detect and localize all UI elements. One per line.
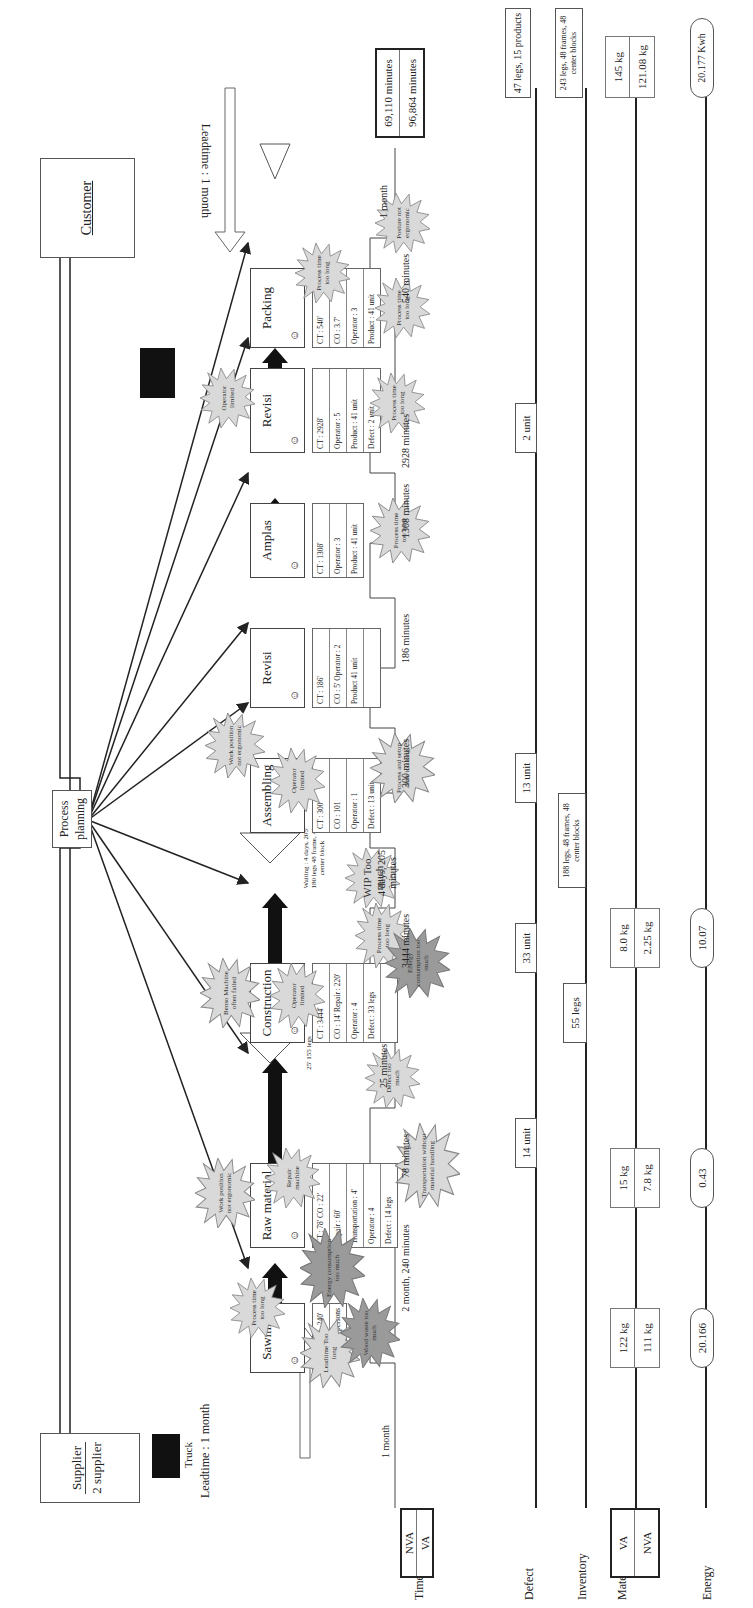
- operator-icon: ☺: [288, 435, 300, 446]
- kaizen-burst: Operator limited: [270, 963, 325, 1028]
- data-cell: Operator : 4: [347, 964, 364, 1042]
- energy-value: 10.07: [690, 908, 714, 968]
- data-cell: Operator : 3: [330, 504, 347, 577]
- operator-icon: ☺: [288, 560, 300, 571]
- kaizen-burst: Repair machine: [265, 1148, 320, 1208]
- process-data-revisi-1: CT : 186' CO : 5' Operator : 2 Product 4…: [312, 628, 381, 708]
- total-nva: 121.08 kg: [630, 37, 654, 97]
- material-va: 15 kg: [611, 1149, 635, 1207]
- data-cell: Defect : 33 legs: [364, 964, 381, 1042]
- energy-value: 20.166: [690, 1308, 714, 1368]
- truck-icon: [140, 348, 175, 398]
- customer-factory: Customer: [40, 158, 135, 258]
- data-cell: CT : 186': [313, 629, 330, 707]
- process-planning-box: Process planning: [52, 790, 92, 848]
- process-name: Revisi: [259, 629, 275, 707]
- defect-total: 47 legs, 15 products: [505, 8, 531, 98]
- truck-label: Truck: [182, 1442, 194, 1468]
- total-va: 96,864 minutes: [400, 50, 423, 136]
- operator-icon: ☺: [288, 1230, 300, 1241]
- process-data-amplas: CT : 1308' Operator : 3 Product : 41 uni…: [312, 503, 364, 578]
- process-amplas: Amplas☺: [250, 503, 305, 578]
- process-revisi-2: Revisi☺: [250, 368, 305, 453]
- material-nva: 7.8 kg: [635, 1149, 659, 1207]
- data-cell: CT : 2928': [313, 369, 330, 452]
- row-label-energy: Energy: [700, 1566, 715, 1600]
- kaizen-burst: Operator limited: [200, 368, 255, 428]
- row-label-inventory: Inventory: [575, 1553, 590, 1600]
- energy-total: 20.177 Kwh: [690, 18, 714, 98]
- data-cell: [364, 629, 380, 707]
- data-cell: Product : 41 unit: [347, 504, 363, 577]
- data-cell: Operator : 5: [330, 369, 347, 452]
- kaizen-burst: Process time too long: [370, 373, 425, 433]
- kaizen-burst: Process and setup time too long: [370, 733, 435, 803]
- time-segment: 1 month: [380, 1425, 391, 1458]
- material-va: 122 kg: [611, 1309, 635, 1367]
- time-legend: NVA VA: [400, 1508, 434, 1578]
- inventory-note: Waiting : 4 days, 205' 180 legs 48 frame…: [302, 823, 326, 893]
- legend-va: VA: [612, 1510, 635, 1576]
- kaizen-burst: Work position not ergonomic: [205, 713, 265, 778]
- energy-line: [705, 88, 707, 1508]
- data-cell: CT : 1308': [313, 504, 330, 577]
- supplier-title: Supplier: [69, 1442, 86, 1494]
- kaizen-burst: Energy consumption too much: [385, 928, 450, 998]
- row-label-defect: Defect: [522, 1568, 537, 1600]
- supplier-leadtime: Leadtime : 1 month: [198, 1404, 213, 1498]
- time-segment: 78 minutes: [400, 1134, 411, 1178]
- legend-nva: NVA: [635, 1510, 658, 1576]
- kaizen-burst: Wood waste too much: [340, 1298, 400, 1368]
- material-line: [635, 88, 637, 1508]
- material-va: 8.0 kg: [611, 909, 635, 967]
- process-revisi-1: Revisi☺: [250, 628, 305, 708]
- process-planning-label-1: Process: [56, 791, 72, 847]
- row-label-time: Time: [412, 1575, 427, 1600]
- data-cell: Product 41 unit: [347, 629, 364, 707]
- operator-icon: ☺: [288, 690, 300, 701]
- data-cell: CO : 14' Repair : 220': [330, 964, 347, 1042]
- total-va: 145 kg: [606, 37, 630, 97]
- kaizen-burst: Process time too long: [370, 498, 430, 563]
- kaizen-burst: Operator limited: [270, 748, 325, 813]
- data-cell: Product : 41 unit: [347, 369, 364, 452]
- time-segment: 186 minutes: [400, 614, 411, 663]
- operator-icon: ☺: [288, 330, 300, 341]
- operator-icon: ☺: [288, 1355, 300, 1366]
- legend-nva: NVA: [402, 1510, 417, 1576]
- kaizen-burst: Defect too much: [365, 1048, 420, 1108]
- supplier-factory: Supplier 2 supplier: [40, 1433, 140, 1503]
- truck-icon: [152, 1434, 180, 1478]
- process-name: Revisi: [259, 369, 275, 452]
- defect-value: 2 unit: [515, 403, 537, 453]
- data-cell: CO : 5' Operator : 2: [330, 629, 347, 707]
- inventory-total: 243 legs, 48 frames, 48 center blocks: [555, 8, 583, 98]
- legend-va: VA: [417, 1510, 432, 1576]
- value-stream-map: Supplier 2 supplier Truck Leadtime : 1 m…: [0, 0, 753, 1608]
- energy-value: 0.43: [690, 1148, 714, 1208]
- process-name: Amplas: [259, 504, 275, 577]
- material-legend: VA NVA: [610, 1508, 660, 1578]
- material-nva: 2.25 kg: [635, 909, 659, 967]
- process-name: Packing: [259, 269, 275, 347]
- customer-leadtime: Leadtime : 1 month: [198, 124, 213, 218]
- defect-value: 13 unit: [515, 753, 537, 803]
- kaizen-burst: Energy consumption too much: [300, 1228, 365, 1308]
- process-planning-label-2: planning: [72, 791, 88, 847]
- total-nva: 69,110 minutes: [377, 50, 400, 136]
- material-value: 15 kg 7.8 kg: [610, 1148, 660, 1208]
- kaizen-burst: Benso Machine often failed: [200, 958, 260, 1028]
- customer-title: Customer: [79, 159, 95, 257]
- data-cell: CO : 101: [330, 759, 347, 832]
- material-total: 145 kg 121.08 kg: [605, 36, 655, 98]
- kaizen-burst: Process time too long: [375, 278, 430, 338]
- time-segment: 1 month: [378, 185, 389, 218]
- time-total: 69,110 minutes 96,864 minutes: [375, 48, 425, 138]
- defect-value: 14 unit: [515, 1118, 537, 1168]
- kaizen-burst: Process time too long: [230, 1278, 285, 1338]
- data-cell: Operator : 4: [364, 1164, 381, 1247]
- time-segment: 2 month, 240 minutes: [400, 1218, 411, 1318]
- inventory-value: 188 legs, 48 frames, 48 center blocks: [558, 793, 586, 888]
- defect-value: 33 unit: [515, 923, 537, 973]
- kaizen-burst: Process time too long: [295, 243, 350, 303]
